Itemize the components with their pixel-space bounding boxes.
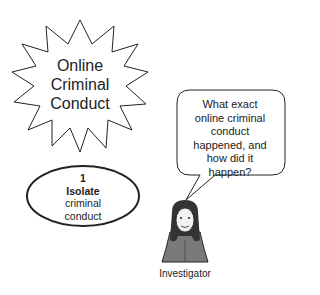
bubble-line: conduct: [180, 125, 280, 139]
bubble-line: happen?: [180, 166, 280, 180]
bubble-line: What exact: [180, 98, 280, 112]
bubble-line: how did it: [180, 152, 280, 166]
step-title: Isolate: [38, 185, 128, 198]
speech-bubble-text: What exact online criminal conduct happe…: [180, 98, 280, 179]
step-line: criminal: [38, 197, 128, 210]
starburst-line: Criminal: [30, 75, 130, 94]
step-number: 1: [38, 172, 128, 185]
starburst-label: Online Criminal Conduct: [30, 56, 130, 113]
starburst-line: Conduct: [30, 94, 130, 113]
step-line: conduct: [38, 210, 128, 223]
step-label: 1 Isolate criminal conduct: [38, 172, 128, 222]
investigator-label: Investigator: [140, 268, 230, 279]
bubble-line: happened, and: [180, 139, 280, 153]
bubble-line: online criminal: [180, 112, 280, 126]
starburst-line: Online: [30, 56, 130, 75]
investigator-figure-icon: [162, 200, 208, 262]
